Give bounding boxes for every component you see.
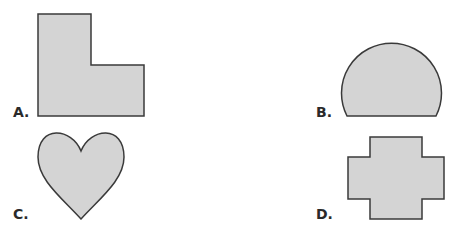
figure-canvas: A. B. C. D. — [0, 0, 455, 237]
option-a-label: A. — [13, 105, 29, 119]
option-b-dome-shape[interactable] — [342, 43, 442, 116]
option-c-label: C. — [13, 207, 29, 221]
option-d-cross-shape[interactable] — [348, 137, 444, 219]
option-c-heart-shape[interactable] — [38, 133, 124, 219]
option-b-label: B. — [316, 105, 332, 119]
option-d-label: D. — [316, 207, 333, 221]
option-a-l-shape[interactable] — [38, 14, 144, 116]
shapes-svg — [0, 0, 455, 237]
